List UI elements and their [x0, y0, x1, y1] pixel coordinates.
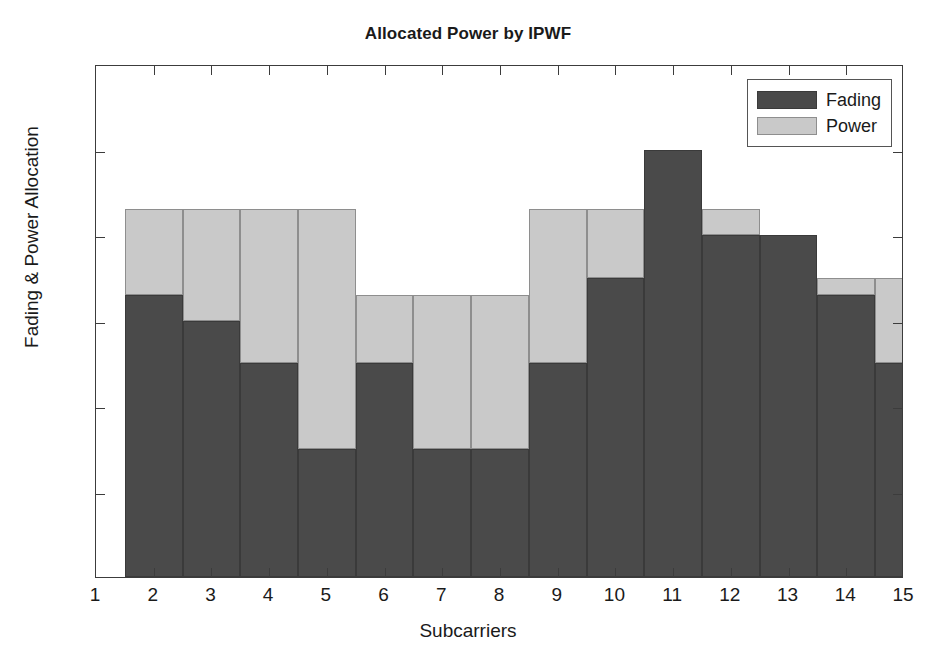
y-tick-mark: [893, 237, 902, 238]
bar-segment-power: [125, 209, 183, 295]
x-tick-mark: [731, 568, 732, 577]
x-tick-mark: [500, 568, 501, 577]
x-tick-label: 14: [815, 584, 875, 606]
bar-segment-power: [817, 278, 875, 295]
bar-group: [298, 209, 356, 577]
x-tick-mark: [269, 568, 270, 577]
bar-group: [413, 295, 471, 577]
bar-segment-fading: [817, 295, 875, 577]
bar-group: [817, 278, 875, 577]
y-tick-mark: [96, 323, 105, 324]
bar-group: [644, 150, 702, 578]
x-tick-mark: [269, 66, 270, 75]
y-tick-mark: [893, 494, 902, 495]
bar-segment-power: [240, 209, 298, 363]
bar-group: [240, 209, 298, 577]
bar-segment-fading: [702, 235, 760, 577]
legend-item-power[interactable]: Power: [757, 113, 882, 139]
legend-swatch-power-icon: [757, 117, 817, 135]
legend-item-fading[interactable]: Fading: [757, 87, 882, 113]
x-tick-label: 7: [411, 584, 471, 606]
bar-segment-power: [183, 209, 241, 320]
y-tick-mark: [96, 237, 105, 238]
x-tick-label: 13: [758, 584, 818, 606]
bar-group: [471, 295, 529, 577]
bar-segment-fading: [471, 449, 529, 577]
y-tick-mark: [893, 152, 902, 153]
bar-segment-fading: [760, 235, 818, 577]
chart-legend: FadingPower: [747, 79, 892, 147]
x-tick-label: 10: [584, 584, 644, 606]
x-tick-mark: [558, 66, 559, 75]
x-tick-mark: [558, 568, 559, 577]
legend-label: Fading: [826, 90, 881, 111]
y-tick-mark: [893, 323, 902, 324]
x-tick-label: 3: [180, 584, 240, 606]
bar-segment-power: [471, 295, 529, 449]
bar-group: [183, 209, 241, 577]
bar-group: [760, 235, 818, 577]
bar-group: [125, 209, 183, 577]
x-tick-label: 1: [65, 584, 125, 606]
x-tick-mark: [327, 568, 328, 577]
bar-segment-fading: [413, 449, 471, 577]
x-tick-label: 11: [642, 584, 702, 606]
legend-label: Power: [826, 116, 877, 137]
x-tick-label: 5: [296, 584, 356, 606]
bar-segment-power: [529, 209, 587, 363]
x-tick-mark: [154, 66, 155, 75]
bar-segment-fading: [240, 363, 298, 577]
x-tick-mark: [211, 568, 212, 577]
bar-segment-power: [875, 278, 903, 364]
chart-figure: Allocated Power by IPWF Fading & Power A…: [0, 0, 936, 667]
bar-group: [702, 209, 760, 577]
x-tick-mark: [846, 66, 847, 75]
x-tick-mark: [385, 66, 386, 75]
x-tick-mark: [673, 66, 674, 75]
y-tick-mark: [96, 494, 105, 495]
bar-group: [529, 209, 587, 577]
bar-segment-power: [413, 295, 471, 449]
x-tick-label: 12: [700, 584, 760, 606]
x-tick-mark: [327, 66, 328, 75]
bar-segment-power: [356, 295, 414, 363]
x-tick-label: 6: [354, 584, 414, 606]
x-tick-mark: [442, 568, 443, 577]
x-tick-label: 9: [527, 584, 587, 606]
x-tick-mark: [846, 568, 847, 577]
y-tick-mark: [893, 408, 902, 409]
x-tick-mark: [615, 66, 616, 75]
x-tick-mark: [789, 568, 790, 577]
bar-segment-fading: [875, 363, 903, 577]
x-tick-mark: [211, 66, 212, 75]
bar-segment-power: [587, 209, 645, 277]
bar-segment-fading: [644, 150, 702, 578]
y-tick-mark: [96, 152, 105, 153]
bar-segment-fading: [125, 295, 183, 577]
chart-title: Allocated Power by IPWF: [0, 24, 936, 44]
bar-segment-fading: [298, 449, 356, 577]
bar-segment-fading: [529, 363, 587, 577]
y-tick-mark: [96, 408, 105, 409]
bar-segment-power: [702, 209, 760, 235]
x-tick-label: 15: [873, 584, 933, 606]
bar-group: [356, 295, 414, 577]
x-axis-label: Subcarriers: [0, 620, 936, 642]
x-tick-mark: [154, 568, 155, 577]
x-tick-mark: [385, 568, 386, 577]
legend-swatch-fading-icon: [757, 91, 817, 109]
x-tick-mark: [615, 568, 616, 577]
bar-group: [587, 209, 645, 577]
x-tick-mark: [789, 66, 790, 75]
x-tick-label: 8: [469, 584, 529, 606]
y-axis-label: Fading & Power Allocation: [21, 0, 43, 497]
x-tick-label: 4: [238, 584, 298, 606]
bar-segment-power: [298, 209, 356, 448]
bar-segment-fading: [183, 321, 241, 578]
x-tick-mark: [673, 568, 674, 577]
x-tick-mark: [500, 66, 501, 75]
x-tick-mark: [731, 66, 732, 75]
bar-segment-fading: [587, 278, 645, 577]
x-tick-label: 2: [123, 584, 183, 606]
x-tick-mark: [442, 66, 443, 75]
